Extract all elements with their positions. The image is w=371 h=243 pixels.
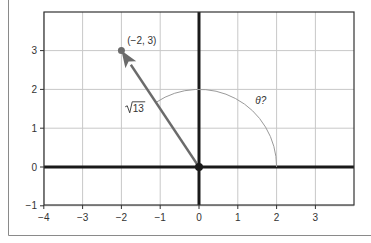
y-tick-label: 0 [31, 162, 37, 173]
x-tick-label: 3 [313, 212, 319, 223]
vector-angle-chart: −4−3−2−10123 −10123 (−2, 3) 13 θ? [0, 0, 371, 243]
x-tick-label: −4 [38, 212, 50, 223]
y-tick-label: 1 [31, 123, 37, 134]
y-tick-label: 3 [31, 45, 37, 56]
x-tick-label: −1 [154, 212, 166, 223]
x-tick-label: −3 [77, 212, 89, 223]
magnitude-radicand: 13 [133, 103, 145, 114]
axes [44, 12, 354, 205]
y-tick-label: 2 [31, 84, 37, 95]
x-tick-label: 1 [235, 212, 241, 223]
x-tick-label: −2 [116, 212, 128, 223]
vector-line [131, 65, 199, 167]
x-tick-label: 2 [274, 212, 280, 223]
point-label: (−2, 3) [127, 35, 156, 46]
x-tick-labels: −4−3−2−10123 [38, 212, 319, 223]
y-tick-labels: −10123 [26, 45, 38, 211]
angle-label: θ? [255, 95, 266, 106]
x-tick-label: 0 [196, 212, 202, 223]
vector-tip-point [118, 47, 125, 54]
tick-marks [40, 51, 315, 209]
y-tick-label: −1 [26, 200, 38, 211]
origin-point [195, 163, 203, 171]
magnitude-label: 13 [125, 102, 145, 114]
